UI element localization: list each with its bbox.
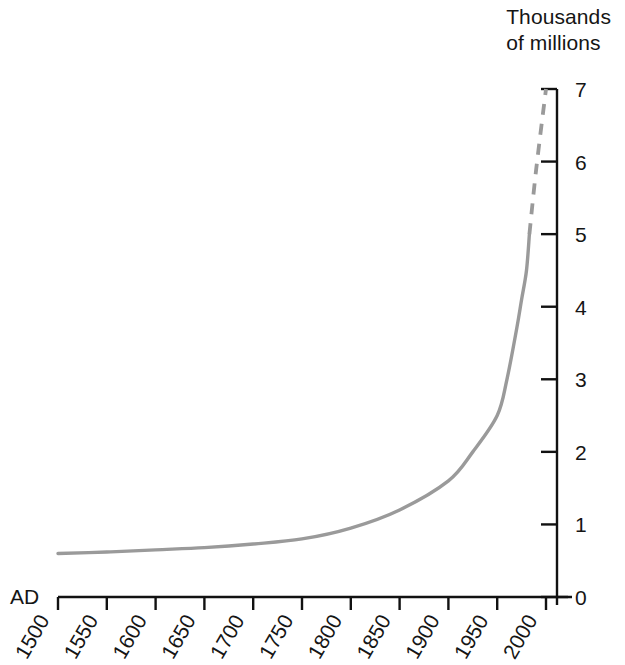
plot-area: 1500155016001650170017501800185019001950… <box>0 0 625 665</box>
y-tick-label: 2 <box>575 441 587 464</box>
x-tick-label: 1550 <box>59 611 102 663</box>
x-tick-label: 1950 <box>449 611 492 663</box>
y-tick-label: 4 <box>575 296 587 319</box>
y-tick-label: 7 <box>575 78 587 101</box>
y-tick-label: 0 <box>575 586 587 609</box>
x-tick-label: 1600 <box>108 611 151 663</box>
population-growth-chart: Thousandsof millions AD 1500155016001650… <box>0 0 625 665</box>
x-tick-label: 1800 <box>303 611 346 663</box>
x-axis-tick-labels: 1500155016001650170017501800185019001950… <box>10 611 541 663</box>
population-curve-observed <box>58 234 529 553</box>
y-tick-label: 1 <box>575 513 587 536</box>
x-tick-label: 1750 <box>254 611 297 663</box>
axes <box>58 89 572 605</box>
x-tick-label: 1900 <box>401 611 444 663</box>
y-axis-tick-labels: 01234567 <box>575 78 587 609</box>
x-tick-label: 1500 <box>10 611 53 663</box>
x-tick-label: 1650 <box>157 611 200 663</box>
x-tick-label: 1700 <box>205 611 248 663</box>
y-tick-label: 3 <box>575 368 587 391</box>
x-axis-ticks <box>58 597 546 610</box>
x-tick-label: 2000 <box>498 611 541 663</box>
x-tick-label: 1850 <box>352 611 395 663</box>
y-axis-ticks <box>541 89 568 597</box>
y-tick-label: 6 <box>575 151 587 174</box>
y-tick-label: 5 <box>575 223 587 246</box>
